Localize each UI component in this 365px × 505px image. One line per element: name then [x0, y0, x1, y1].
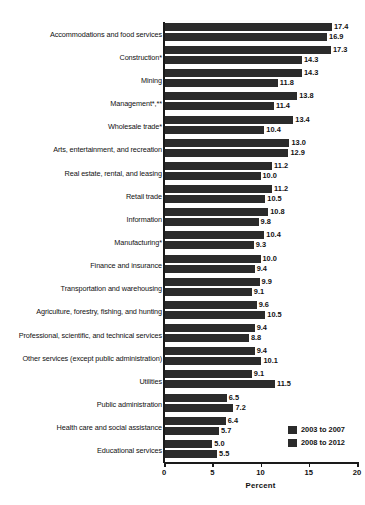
- bar-series-1: [164, 231, 264, 239]
- x-axis-tick: [309, 462, 311, 467]
- bar-series-1: [164, 255, 261, 263]
- bar-series-1: [164, 185, 272, 193]
- category-label: Accommodations and food services: [50, 29, 162, 38]
- bar-series-2: [164, 450, 217, 458]
- category-label: Real estate, rental, and leasing: [65, 168, 162, 177]
- bar-value-label: 6.4: [226, 417, 238, 425]
- category-label: Mining: [141, 75, 162, 84]
- bar-series-2: [164, 380, 275, 388]
- bar-series-2: [164, 288, 252, 296]
- bar-value-label: 9.3: [254, 241, 266, 249]
- bar-series-1: [164, 116, 293, 124]
- bar-value-label: 11.2: [272, 185, 288, 193]
- category-label: Professional, scientific, and technical …: [19, 330, 162, 339]
- bar-series-2: [164, 56, 302, 64]
- category-label: Retail trade: [126, 191, 162, 200]
- bar-series-1: [164, 417, 226, 425]
- bar-series-2: [164, 311, 265, 319]
- bar-value-label: 7.2: [233, 404, 245, 412]
- legend-swatch-icon: [288, 439, 297, 447]
- bar-group: 10.89.8: [164, 207, 365, 230]
- bar-group: 9.410.1: [164, 346, 365, 369]
- bar-series-1: [164, 162, 272, 170]
- bar-value-label: 8.8: [249, 334, 261, 342]
- plot-area: Accommodations and food services17.416.9…: [0, 22, 365, 462]
- chart-row: Mining14.311.8: [0, 68, 365, 91]
- bar-value-label: 17.3: [331, 46, 347, 54]
- bar-value-label: 16.9: [327, 33, 343, 41]
- bar-value-label: 11.4: [274, 102, 290, 110]
- bar-group: 9.610.5: [164, 300, 365, 323]
- bar-value-label: 9.8: [259, 218, 271, 226]
- bar-series-2: [164, 79, 278, 87]
- bar-group: 9.48.8: [164, 323, 365, 346]
- chart-row: Public administration6.57.2: [0, 393, 365, 416]
- x-axis-title: Percent: [164, 481, 357, 490]
- bar-series-2: [164, 427, 219, 435]
- chart-row: Professional, scientific, and technical …: [0, 323, 365, 346]
- category-label: Health care and social assistance: [57, 423, 162, 432]
- category-label: Educational services: [97, 446, 162, 455]
- bar-series-1: [164, 324, 255, 332]
- legend-swatch-icon: [288, 426, 297, 434]
- bar-value-label: 14.3: [302, 69, 318, 77]
- bar-series-2: [164, 102, 274, 110]
- legend-item-series-2: 2008 to 2012: [288, 437, 345, 448]
- bar-value-label: 9.4: [255, 324, 267, 332]
- bar-value-label: 9.1: [252, 288, 264, 296]
- bar-series-2: [164, 149, 288, 157]
- x-axis-tick-label: 20: [353, 468, 361, 477]
- bar-group: 14.311.8: [164, 68, 365, 91]
- chart-row: Transportation and warehousing9.99.1: [0, 277, 365, 300]
- bar-value-label: 9.4: [255, 347, 267, 355]
- y-axis-line: [163, 22, 165, 463]
- bar-series-1: [164, 208, 268, 216]
- bar-series-1: [164, 370, 252, 378]
- bar-value-label: 10.5: [265, 195, 281, 203]
- chart-row: Agriculture, forestry, fishing, and hunt…: [0, 300, 365, 323]
- category-label: Management*,**: [110, 99, 162, 108]
- category-label: Agriculture, forestry, fishing, and hunt…: [36, 307, 162, 316]
- bar-value-label: 10.4: [264, 231, 280, 239]
- bar-value-label: 9.1: [252, 370, 264, 378]
- category-label: Wholesale trade*: [108, 122, 162, 131]
- bar-value-label: 10.0: [261, 172, 277, 180]
- bar-group: 10.09.4: [164, 254, 365, 277]
- bar-value-label: 9.4: [255, 265, 267, 273]
- bar-series-1: [164, 69, 302, 77]
- chart-row: Retail trade11.210.5: [0, 184, 365, 207]
- bar-value-label: 6.5: [227, 394, 239, 402]
- bar-value-label: 10.1: [261, 357, 277, 365]
- bar-value-label: 11.5: [275, 380, 291, 388]
- chart-row: Manufacturing*10.49.3: [0, 230, 365, 253]
- bar-value-label: 5.5: [217, 450, 229, 458]
- bar-series-1: [164, 394, 227, 402]
- bar-series-1: [164, 46, 331, 54]
- chart-legend: 2003 to 2007 2008 to 2012: [288, 424, 345, 450]
- bar-series-2: [164, 126, 264, 134]
- chart-row: Information10.89.8: [0, 207, 365, 230]
- bar-series-1: [164, 440, 212, 448]
- category-label: Other services (except public administra…: [23, 353, 162, 362]
- legend-label-series-1: 2003 to 2007: [301, 425, 345, 434]
- bar-value-label: 9.6: [257, 301, 269, 309]
- chart-row: Construction*17.314.3: [0, 45, 365, 68]
- chart-row: Utilities9.111.5: [0, 369, 365, 392]
- category-label: Transportation and warehousing: [61, 284, 162, 293]
- bar-series-1: [164, 92, 297, 100]
- bar-series-2: [164, 218, 259, 226]
- bar-series-1: [164, 301, 257, 309]
- chart-row: Wholesale trade*13.410.4: [0, 115, 365, 138]
- bar-group: 17.416.9: [164, 22, 365, 45]
- bar-series-2: [164, 334, 249, 342]
- bar-group: 13.811.4: [164, 91, 365, 114]
- chart-row: Management*,**13.811.4: [0, 91, 365, 114]
- category-label: Finance and insurance: [90, 261, 162, 270]
- bar-group: 11.210.0: [164, 161, 365, 184]
- bar-value-label: 11.2: [272, 162, 288, 170]
- x-axis-tick-label: 15: [305, 468, 313, 477]
- bar-chart: Accommodations and food services17.416.9…: [0, 0, 365, 505]
- bar-series-1: [164, 278, 260, 286]
- bar-series-2: [164, 241, 254, 249]
- chart-row: Real estate, rental, and leasing11.210.0: [0, 161, 365, 184]
